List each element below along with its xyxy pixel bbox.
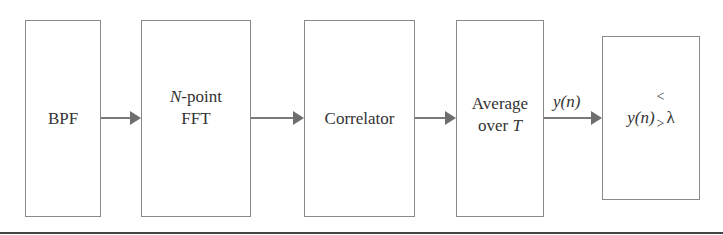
bpf-label: BPF xyxy=(48,108,78,129)
comparison-operator: < > xyxy=(657,105,665,130)
correlator-block: Correlator xyxy=(304,20,415,217)
arrow-bpf-to-fft xyxy=(101,117,139,119)
bottom-rule xyxy=(0,232,723,234)
greater-than-symbol: > xyxy=(657,118,665,131)
edge-label-yn: y(n) xyxy=(553,92,580,112)
average-label: Average over T xyxy=(472,93,528,136)
less-than-symbol: < xyxy=(657,91,665,104)
fft-point-text: -point xyxy=(181,87,222,106)
fft-label: N-point FFT xyxy=(170,86,222,129)
average-line1: Average xyxy=(472,93,528,114)
bpf-block: BPF xyxy=(25,20,101,217)
lambda-symbol: λ xyxy=(667,107,675,128)
threshold-lhs: y(n) xyxy=(627,107,654,128)
arrow-correlator-to-average xyxy=(415,117,454,119)
average-t-symbol: T xyxy=(513,116,522,135)
arrow-average-to-threshold xyxy=(544,117,600,119)
threshold-block: y(n) < > λ xyxy=(602,36,700,200)
arrow-fft-to-correlator xyxy=(251,117,302,119)
fft-n-symbol: N xyxy=(170,87,181,106)
correlator-label: Correlator xyxy=(325,108,395,129)
threshold-expression: y(n) < > λ xyxy=(627,105,675,130)
average-over-text: over xyxy=(478,116,512,135)
average-block: Average over T xyxy=(456,20,544,217)
fft-block: N-point FFT xyxy=(141,20,251,217)
fft-line2: FFT xyxy=(170,108,222,129)
